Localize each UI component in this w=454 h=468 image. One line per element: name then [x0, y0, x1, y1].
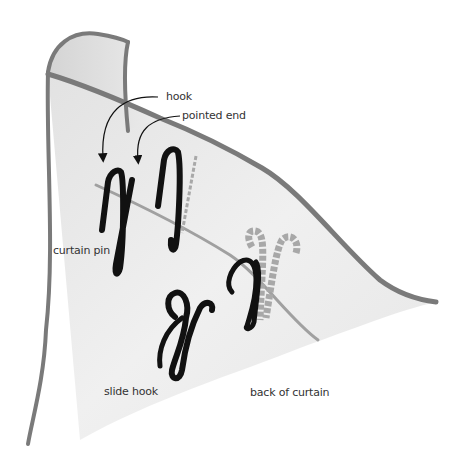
label-pointed-end: pointed end [182, 109, 246, 122]
label-hook: hook [166, 90, 192, 103]
label-curtain-pin: curtain pin [53, 244, 110, 257]
fold-inner-edge [125, 42, 128, 131]
curtain-left-edge [28, 72, 50, 444]
curtain-diagram [0, 0, 454, 468]
label-slide-hook: slide hook [104, 385, 158, 398]
label-back-of-curtain: back of curtain [250, 386, 329, 399]
